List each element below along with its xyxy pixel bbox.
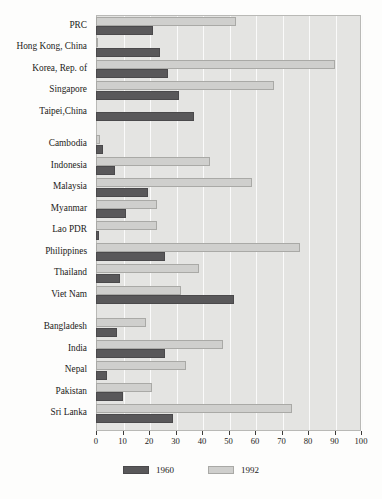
bar-row xyxy=(96,241,361,263)
bar-1992 xyxy=(96,404,292,413)
bar-rows xyxy=(96,15,361,431)
bar-1960 xyxy=(96,231,99,240)
bar-1992 xyxy=(96,264,199,273)
x-tick-60 xyxy=(255,431,256,435)
bar-1960 xyxy=(96,112,194,121)
x-tick-80 xyxy=(308,431,309,435)
x-tick-10 xyxy=(123,431,124,435)
y-axis-label: Nepal xyxy=(0,364,87,375)
y-axis-label: Indonesia xyxy=(0,160,87,171)
bar-1960 xyxy=(96,328,117,337)
bar-row xyxy=(96,338,361,360)
bar-1992 xyxy=(96,200,157,209)
bar-1992 xyxy=(96,286,181,295)
bar-row xyxy=(96,155,361,177)
bar-1960 xyxy=(96,392,123,401)
bar-row xyxy=(96,263,361,285)
bar-row xyxy=(96,403,361,425)
bar-1960 xyxy=(96,26,153,35)
bar-row xyxy=(96,220,361,242)
bar-1960 xyxy=(96,371,107,380)
legend-item-1960: 1960 xyxy=(123,465,174,475)
x-axis-tick-labels: 0102030405060708090100 xyxy=(0,436,382,450)
bar-1992 xyxy=(96,135,100,144)
x-tick-label: 10 xyxy=(111,436,135,446)
bar-row xyxy=(96,37,361,59)
y-axis-label: Cambodia xyxy=(0,138,87,149)
bar-row xyxy=(96,15,361,37)
legend-label: 1992 xyxy=(241,465,259,475)
x-tick-label: 60 xyxy=(243,436,267,446)
bar-1992 xyxy=(96,38,98,47)
x-tick-label: 40 xyxy=(190,436,214,446)
y-axis-label: Hong Kong, China xyxy=(0,41,87,52)
bar-row xyxy=(96,177,361,199)
x-tick-100 xyxy=(361,431,362,435)
bar-row xyxy=(96,360,361,382)
bar-1992 xyxy=(96,340,223,349)
y-axis-label: Malaysia xyxy=(0,181,87,192)
bar-row xyxy=(96,80,361,102)
y-axis-label: Lao PDR xyxy=(0,224,87,235)
bar-row xyxy=(96,198,361,220)
bar-1992 xyxy=(96,383,152,392)
bar-1960 xyxy=(96,188,148,197)
bar-1960 xyxy=(96,166,115,175)
y-axis-label: Korea, Rep. of xyxy=(0,63,87,74)
x-tick-label: 0 xyxy=(84,436,108,446)
group-separator xyxy=(96,123,361,134)
bar-row xyxy=(96,381,361,403)
x-tick-label: 50 xyxy=(217,436,241,446)
y-axis-label: PRC xyxy=(0,20,87,31)
y-axis-label: Taipei,China xyxy=(0,106,87,117)
bar-1960 xyxy=(96,252,165,261)
bar-1992 xyxy=(96,221,157,230)
x-tick-90 xyxy=(335,431,336,435)
bar-1992 xyxy=(96,243,300,252)
y-axis-label: Singapore xyxy=(0,84,87,95)
bar-1960 xyxy=(96,414,173,423)
bar-1992 xyxy=(96,361,186,370)
bar-1960 xyxy=(96,349,165,358)
legend-item-1992: 1992 xyxy=(208,465,259,475)
x-tick-30 xyxy=(176,431,177,435)
x-tick-label: 20 xyxy=(137,436,161,446)
bar-1960 xyxy=(96,48,160,57)
y-axis-label: Myanmar xyxy=(0,203,87,214)
chart-figure: PRCHong Kong, ChinaKorea, Rep. ofSingapo… xyxy=(0,0,382,499)
x-tick-label: 80 xyxy=(296,436,320,446)
y-axis-label: Thailand xyxy=(0,267,87,278)
y-axis-label: India xyxy=(0,343,87,354)
chart-legend: 1960 1992 xyxy=(0,462,382,478)
bar-1960 xyxy=(96,295,234,304)
x-tick-0 xyxy=(96,431,97,435)
light-gray-swatch-icon xyxy=(208,466,234,474)
bar-1992 xyxy=(96,157,210,166)
bar-row xyxy=(96,284,361,306)
bar-1960 xyxy=(96,91,179,100)
bar-row xyxy=(96,134,361,156)
bar-1992 xyxy=(96,178,252,187)
y-axis-label: Bangladesh xyxy=(0,321,87,332)
bar-row xyxy=(96,58,361,80)
y-axis-label: Sri Lanka xyxy=(0,407,87,418)
x-tick-20 xyxy=(149,431,150,435)
bar-row xyxy=(96,101,361,123)
gridline-100 xyxy=(362,16,363,430)
x-tick-label: 90 xyxy=(323,436,347,446)
x-tick-40 xyxy=(202,431,203,435)
x-tick-70 xyxy=(282,431,283,435)
x-tick-label: 30 xyxy=(164,436,188,446)
x-tick-50 xyxy=(229,431,230,435)
bar-row xyxy=(96,317,361,339)
dark-gray-swatch-icon xyxy=(123,466,149,474)
group-separator xyxy=(96,306,361,317)
x-tick-label: 100 xyxy=(349,436,373,446)
bar-1960 xyxy=(96,145,103,154)
bar-1992 xyxy=(96,17,236,26)
bar-1960 xyxy=(96,274,120,283)
bar-1992 xyxy=(96,81,274,90)
bar-1960 xyxy=(96,209,126,218)
y-axis-label: Philippines xyxy=(0,246,87,257)
bar-1960 xyxy=(96,69,168,78)
